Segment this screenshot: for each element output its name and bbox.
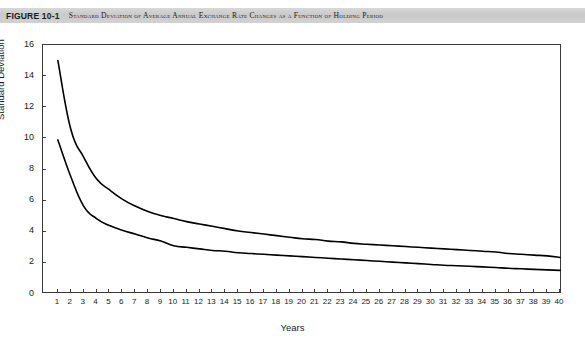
x-tick-mark [173, 289, 174, 293]
x-tick-mark [327, 289, 328, 293]
x-tick-mark [495, 289, 496, 293]
x-tick-mark [199, 289, 200, 293]
x-tick-mark [533, 289, 534, 293]
x-tick-mark [147, 289, 148, 293]
x-tick-mark [186, 289, 187, 293]
y-tick-label: 12 [18, 102, 34, 111]
x-tick-mark [160, 289, 161, 293]
x-tick-mark [353, 289, 354, 293]
y-tick-label: 8 [18, 164, 34, 173]
x-tick-mark [70, 289, 71, 293]
x-tick-mark [276, 289, 277, 293]
x-tick-mark [83, 289, 84, 293]
x-tick-mark [559, 289, 560, 293]
y-tick-label: 14 [18, 71, 34, 80]
x-tick-mark [134, 289, 135, 293]
x-tick-mark [443, 289, 444, 293]
axes-layer: Standard Deviation Years 0246810121416 1… [0, 0, 585, 345]
x-tick-mark [379, 289, 380, 293]
x-tick-mark [237, 289, 238, 293]
y-tick-label: 2 [18, 257, 34, 266]
x-tick-mark [546, 289, 547, 293]
x-tick-mark [417, 289, 418, 293]
x-tick-mark [96, 289, 97, 293]
x-tick-mark [314, 289, 315, 293]
y-axis-title: Standard Deviation [0, 39, 6, 120]
x-tick-mark [366, 289, 367, 293]
x-tick-mark [508, 289, 509, 293]
y-tick-mark [42, 75, 46, 76]
y-tick-label: 4 [18, 226, 34, 235]
x-tick-mark [57, 289, 58, 293]
x-tick-mark [340, 289, 341, 293]
x-tick-mark [456, 289, 457, 293]
y-tick-label: 6 [18, 195, 34, 204]
x-tick-label: 40 [552, 298, 566, 306]
x-tick-mark [108, 289, 109, 293]
x-tick-mark [469, 289, 470, 293]
y-tick-mark [42, 106, 46, 107]
x-tick-mark [520, 289, 521, 293]
y-tick-mark [42, 231, 46, 232]
x-tick-mark [302, 289, 303, 293]
y-tick-label: 0 [18, 289, 34, 298]
x-axis-title: Years [0, 322, 585, 333]
y-tick-label: 10 [18, 133, 34, 142]
x-tick-mark [392, 289, 393, 293]
y-tick-mark [42, 262, 46, 263]
y-tick-label: 16 [18, 40, 34, 49]
x-tick-mark [224, 289, 225, 293]
x-tick-mark [263, 289, 264, 293]
x-tick-mark [289, 289, 290, 293]
x-tick-mark [211, 289, 212, 293]
x-tick-mark [482, 289, 483, 293]
x-tick-mark [430, 289, 431, 293]
x-tick-mark [250, 289, 251, 293]
y-tick-mark [42, 137, 46, 138]
y-tick-mark [42, 169, 46, 170]
x-tick-mark [405, 289, 406, 293]
y-tick-mark [42, 200, 46, 201]
x-tick-mark [121, 289, 122, 293]
